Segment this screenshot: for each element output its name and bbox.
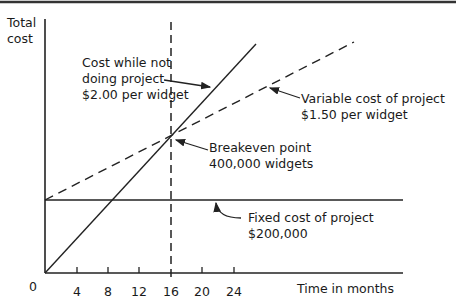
not-doing-label-line1: Cost while not bbox=[82, 55, 171, 71]
x-tick-12: 12 bbox=[131, 285, 147, 299]
variable-arrow bbox=[270, 88, 300, 98]
variable-label-line2: $1.50 per widget bbox=[301, 107, 408, 123]
x-axis-label: Time in months bbox=[297, 281, 394, 297]
breakeven-label-line2: 400,000 widgets bbox=[209, 156, 313, 172]
x-tick-8: 8 bbox=[104, 285, 112, 299]
not-doing-label-line3: $2.00 per widget bbox=[82, 87, 189, 103]
origin-label: 0 bbox=[29, 279, 37, 295]
variable-label-line1: Variable cost of project bbox=[301, 91, 445, 107]
not-doing-arrow bbox=[164, 80, 210, 87]
fixed-label-line2: $200,000 bbox=[248, 226, 308, 242]
y-axis-label-line2: cost bbox=[7, 31, 33, 47]
x-tick-16: 16 bbox=[163, 285, 179, 299]
x-tick-4: 4 bbox=[73, 285, 81, 299]
x-tick-20: 20 bbox=[194, 285, 210, 299]
x-tick-24: 24 bbox=[226, 285, 242, 299]
fixed-label-line1: Fixed cost of project bbox=[248, 210, 374, 226]
y-axis-label-line1: Total bbox=[7, 15, 36, 31]
breakeven-label-line1: Breakeven point bbox=[209, 140, 311, 156]
not-doing-label-line2: doing project bbox=[82, 71, 164, 87]
breakeven-arrow bbox=[176, 140, 208, 150]
fixed-cost-arrow bbox=[216, 203, 241, 218]
x-ticks bbox=[77, 267, 234, 273]
